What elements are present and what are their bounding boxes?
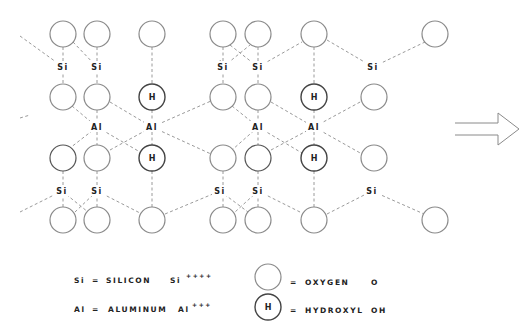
- legend-si-eq: =: [92, 276, 100, 285]
- silicon-label: Si: [252, 63, 264, 72]
- oxygen-atom-icon: [210, 84, 236, 110]
- legend-hydroxyl-name: HYDROXYL: [305, 306, 364, 315]
- aluminum-label: Al: [252, 123, 264, 132]
- hydroxyl-label: H: [311, 93, 318, 102]
- oxygen-atom-icon: [245, 84, 271, 110]
- legend-si-ion: Si: [170, 276, 181, 285]
- hydroxyl-label: H: [149, 154, 156, 163]
- legend-hydroxyl-glyph: H: [265, 303, 272, 312]
- legend-si-symbol: Si: [74, 276, 85, 285]
- aluminum-labels: Al Al Al Al: [89, 121, 323, 132]
- oxygen-atom-icon: [50, 207, 76, 233]
- silicon-label: Si: [214, 187, 226, 196]
- oxygen-atom-icon: [210, 145, 236, 171]
- legend-oxygen-symbol: O: [371, 278, 379, 287]
- legend-oxygen-icon: [255, 264, 281, 290]
- legend-hydroxyl-eq: =: [290, 306, 298, 315]
- kaolinite-structure-diagram: H H H H Si Si Si Si Si Si Si Si Si Si Al…: [0, 0, 531, 334]
- oxygen-atom-icon: [361, 84, 387, 110]
- legend: Si = SILICON Si ++++ Al = ALUMINUM Al ++…: [74, 264, 387, 320]
- legend-oxygen-name: OXYGEN: [305, 278, 349, 287]
- silicon-label: Si: [367, 63, 379, 72]
- oxygen-atom-icon: [210, 207, 236, 233]
- silicon-label: Si: [252, 187, 264, 196]
- silicon-label: Si: [57, 63, 69, 72]
- silicon-label: Si: [217, 63, 229, 72]
- oxygen-atom-icon: [422, 207, 448, 233]
- oxygen-atom-icon: [361, 145, 387, 171]
- silicon-label: Si: [91, 187, 103, 196]
- silicon-label: Si: [366, 187, 378, 196]
- oxygen-atom-icon: [50, 21, 76, 47]
- legend-si-name: SILICON: [106, 276, 151, 285]
- legend-hydroxyl-symbol: OH: [371, 306, 387, 315]
- oxygen-atoms: [50, 21, 448, 233]
- oxygen-atom-icon: [210, 21, 236, 47]
- aluminum-label: Al: [91, 123, 103, 132]
- legend-si-charge: ++++: [186, 272, 213, 279]
- aluminum-label: Al: [308, 123, 320, 132]
- oxygen-atom-icon: [84, 84, 110, 110]
- oxygen-atom-icon: [139, 21, 165, 47]
- hydroxyl-label: H: [149, 93, 156, 102]
- oxygen-atom-icon: [50, 84, 76, 110]
- oxygen-atom-icon: [245, 21, 271, 47]
- legend-al-symbol: Al: [74, 305, 86, 314]
- right-arrow-icon: [455, 113, 519, 145]
- legend-al-charge: +++: [192, 301, 212, 308]
- hydroxyl-label: H: [311, 154, 318, 163]
- oxygen-atom-icon: [301, 207, 327, 233]
- silicon-label: Si: [91, 63, 103, 72]
- oxygen-atom-icon: [422, 21, 448, 47]
- legend-al-name: ALUMINUM: [108, 305, 167, 314]
- oxygen-atom-icon: [84, 207, 110, 233]
- oxygen-atom-icon: [245, 207, 271, 233]
- legend-al-ion: Al: [178, 305, 190, 314]
- legend-al-eq: =: [92, 305, 100, 314]
- aluminum-label: Al: [146, 123, 158, 132]
- oxygen-atom-icon: [245, 145, 271, 171]
- oxygen-atom-icon: [301, 21, 327, 47]
- oxygen-atom-icon: [139, 207, 165, 233]
- legend-oxygen-eq: =: [290, 278, 298, 287]
- oxygen-atom-icon: [84, 145, 110, 171]
- oxygen-atom-icon: [84, 21, 110, 47]
- oxygen-atom-icon: [50, 145, 76, 171]
- silicon-label: Si: [56, 187, 68, 196]
